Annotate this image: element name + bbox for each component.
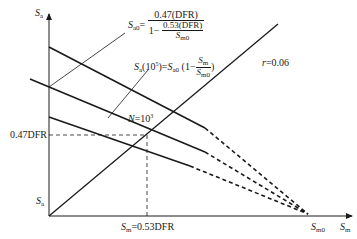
sa-1e5-line-dashed — [205, 152, 308, 214]
sa0-line-dashed — [205, 128, 308, 214]
x-axis-label: Sm — [340, 222, 350, 234]
y-axis-label: Sa — [35, 8, 43, 20]
y-tick-047dfr: 0.47DFR — [10, 130, 47, 140]
y-tick-sa: Sa — [36, 196, 44, 208]
sa-1e5-formula: Sa(105)=Sa0 (1− Sm Sm0 ) — [134, 56, 214, 79]
x-tick-sm-053dfr: Sm=0.53DFR — [121, 222, 174, 234]
r-value-label: r=0.06 — [262, 58, 289, 68]
sa0-formula: Sa0= 0.47(DFR) 1− 0.53(DFR) Sm0 — [128, 10, 204, 42]
n-1e3-line-dashed — [190, 166, 308, 214]
n-cycles-label: N=103 — [128, 113, 153, 124]
n-1e3-line-solid — [49, 117, 190, 166]
x-tick-sm0: Sm0 — [311, 222, 325, 234]
leader-sa0 — [49, 33, 125, 87]
